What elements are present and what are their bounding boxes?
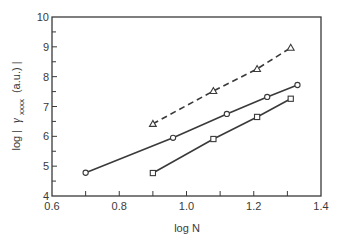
y-tick-label: 5 [43, 160, 49, 172]
circle-marker [83, 170, 88, 175]
series-circles [83, 82, 300, 175]
axes: 0.60.81.01.21.445678910 [37, 11, 329, 212]
y-axis-label: log | γ xxxx (a.u.) | [9, 61, 26, 150]
y-tick-label: 6 [43, 130, 49, 142]
y-tick-label: 7 [43, 101, 49, 113]
triangle-marker [254, 66, 261, 72]
plot-frame [52, 17, 321, 196]
circle-marker [170, 135, 175, 140]
x-axis-label: log N [174, 222, 200, 234]
x-tick-label: 1.4 [313, 200, 328, 212]
square-marker [150, 170, 155, 175]
plot-series [83, 44, 300, 175]
square-marker [288, 96, 293, 101]
y-tick-label: 9 [43, 41, 49, 53]
circle-marker [265, 94, 270, 99]
series-line-triangles [153, 48, 291, 124]
y-tick-label: 4 [43, 190, 49, 202]
y-tick-label: 8 [43, 71, 49, 83]
chart-canvas: 0.60.81.01.21.445678910 log N log | γ xx… [0, 0, 341, 248]
y-tick-label: 10 [37, 11, 49, 23]
x-tick-label: 1.2 [246, 200, 261, 212]
square-marker [211, 136, 216, 141]
triangle-marker [287, 44, 294, 50]
circle-marker [295, 82, 300, 87]
circle-marker [224, 111, 229, 116]
series-triangles [149, 44, 294, 126]
x-tick-label: 1.0 [179, 200, 194, 212]
square-marker [255, 114, 260, 119]
x-tick-label: 0.8 [112, 200, 127, 212]
y-axis-label-suffix: (a.u.) | [10, 61, 22, 93]
axis-labels: log N log | γ xxxx (a.u.) | [9, 61, 200, 234]
gamma-symbol: γ [9, 118, 23, 123]
svg-text:log | γ xxxx: log | γ xxxx (a.u.) | [9, 61, 26, 150]
y-axis-label-subscript: xxxx [17, 99, 26, 115]
y-axis-label-prefix: log | [10, 130, 22, 151]
